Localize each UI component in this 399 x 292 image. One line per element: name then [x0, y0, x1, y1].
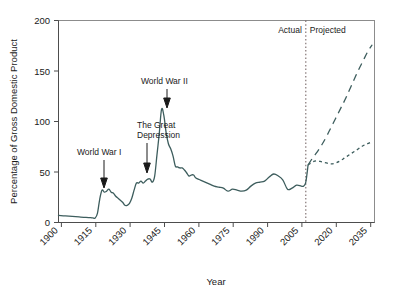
x-tick-label: 1990 [243, 225, 266, 248]
annotation-label-line2: Depression [137, 130, 180, 140]
series-actual-line [59, 108, 309, 218]
annotation-label-line1: The Great [137, 120, 176, 130]
x-tick-labels: 1900 1915 1930 1945 1960 1975 1990 2005 … [37, 225, 369, 248]
actual-region-label: Actual [278, 25, 302, 35]
x-tick-label: 1960 [175, 225, 198, 248]
y-tick-labels: 200 150 100 50 0 [34, 15, 50, 228]
x-tick-label: 1975 [209, 225, 232, 248]
annotation-world-war-i: World War I [77, 147, 121, 188]
x-tick-label: 2005 [278, 225, 301, 248]
annotation-label: World War I [77, 147, 121, 157]
annotation-great-depression: The Great Depression [137, 120, 180, 173]
x-tick-label: 1900 [37, 225, 60, 248]
annotation-label: World War II [141, 76, 188, 86]
projected-region-label: Projected [310, 25, 346, 35]
y-tick-label: 50 [39, 167, 50, 178]
x-tick-label: 2020 [312, 225, 335, 248]
gdp-debt-chart: 200 150 100 50 0 1900 1915 1930 1945 196… [0, 0, 399, 292]
annotation-world-war-ii: World War II [141, 76, 188, 108]
y-tick-label: 100 [34, 116, 50, 127]
x-tick-label: 2035 [346, 225, 369, 248]
x-axis-title: Year [206, 276, 225, 287]
x-tick-label: 1930 [106, 225, 129, 248]
series-projected-low-line [308, 142, 372, 165]
y-tick-label: 200 [34, 15, 50, 26]
y-axis-title: Percentage of Gross Domestic Product [8, 39, 19, 204]
series-projected-high-line [308, 45, 372, 165]
x-tick-label: 1915 [71, 225, 94, 248]
x-tick-label: 1945 [140, 225, 163, 248]
y-tick-marks [54, 21, 59, 223]
y-tick-label: 150 [34, 66, 50, 77]
